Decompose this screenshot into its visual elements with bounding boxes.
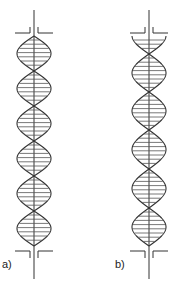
bottom-right-bracket-a bbox=[38, 251, 53, 258]
bottom-right-bracket-b bbox=[153, 251, 168, 258]
bottom-left-bracket-b bbox=[130, 251, 145, 258]
top-left-bracket-b bbox=[130, 27, 145, 33]
panel-label-b: b) bbox=[115, 259, 125, 270]
top-right-bracket-a bbox=[38, 27, 53, 33]
top-right-bracket-b bbox=[153, 27, 168, 33]
dna-helix-figure: a) b) bbox=[0, 0, 176, 282]
bottom-left-bracket-a bbox=[15, 251, 30, 258]
panel-label-a: a) bbox=[2, 259, 12, 270]
top-left-bracket-a bbox=[15, 27, 30, 33]
helix-diagram bbox=[0, 0, 176, 282]
